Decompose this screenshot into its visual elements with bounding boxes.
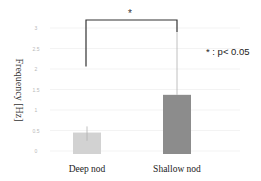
category-label: Deep nod [69,164,106,174]
category-label: Shallow nod [153,164,201,174]
y-axis-ticks: 00.511.522.53 [33,25,40,154]
x-axis-categories: Deep nodShallow nod [69,164,201,174]
significance-star: * [128,8,132,19]
y-tick-label: 2 [35,66,38,72]
y-axis-label: Frequency [Hz] [14,58,25,121]
y-tick-label: 2.5 [33,46,40,52]
y-tick-label: 0.5 [33,128,40,134]
significance-bracket: * [86,8,177,66]
bar-chart: 00.511.522.53 Frequency [Hz] Deep nodSha… [0,0,261,181]
y-tick-label: 1.5 [33,87,40,93]
y-tick-label: 3 [35,25,38,31]
y-tick-label: 1 [35,107,38,113]
bar-shallow-nod [163,95,191,154]
y-tick-label: 0 [35,148,38,154]
bars [73,32,191,154]
significance-note: * : p< 0.05 [206,46,250,57]
